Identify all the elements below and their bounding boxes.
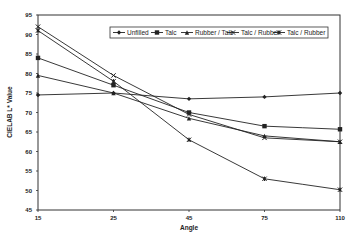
y-axis: 4550556065707580859095 bbox=[25, 12, 38, 213]
y-tick-label: 50 bbox=[25, 188, 32, 194]
line-chart: 4550556065707580859095 15254575110 CIELA… bbox=[0, 0, 355, 241]
y-tick-label: 65 bbox=[25, 129, 32, 135]
legend-label: Talc bbox=[165, 29, 177, 36]
x-tick-label: 110 bbox=[335, 215, 345, 221]
legend-label: Talc / Rubber bbox=[287, 29, 326, 36]
y-tick-label: 45 bbox=[25, 207, 32, 213]
x-tick-label: 75 bbox=[261, 215, 268, 221]
x-tick-label: 25 bbox=[110, 215, 117, 221]
y-tick-label: 85 bbox=[25, 51, 32, 57]
legend-label: Unfilled bbox=[127, 29, 149, 36]
y-tick-label: 95 bbox=[25, 12, 32, 18]
y-tick-label: 55 bbox=[25, 168, 32, 174]
y-axis-label: CIELAB L* Value bbox=[6, 86, 13, 138]
chart-legend: UnfilledTalcRubber / TalcTalc / RubberTa… bbox=[110, 27, 328, 38]
x-tick-label: 15 bbox=[35, 215, 42, 221]
x-axis: 15254575110 bbox=[35, 210, 346, 221]
y-tick-label: 70 bbox=[25, 110, 32, 116]
y-tick-label: 80 bbox=[25, 71, 32, 77]
x-axis-label: Angle bbox=[180, 224, 198, 232]
y-tick-label: 60 bbox=[25, 149, 32, 155]
x-tick-label: 45 bbox=[186, 215, 193, 221]
y-tick-label: 75 bbox=[25, 90, 32, 96]
y-tick-label: 90 bbox=[25, 32, 32, 38]
